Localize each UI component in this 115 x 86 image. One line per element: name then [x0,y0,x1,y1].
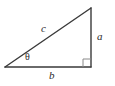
right-triangle-diagram: c a b θ [0,0,115,86]
hypotenuse-label: c [41,23,46,34]
hypotenuse-line [5,8,91,67]
triangle-graphic [0,0,115,86]
theta-angle-label: θ [25,52,30,62]
right-angle-marker-icon [83,59,91,67]
opposite-side-label: a [97,31,103,42]
adjacent-side-label: b [49,70,55,81]
